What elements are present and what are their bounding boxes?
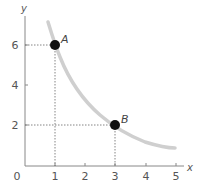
y-tick-6: 6	[12, 39, 19, 52]
y-tick-4: 4	[12, 79, 19, 92]
y-axis-label: y	[20, 3, 28, 14]
x-tick-4: 4	[143, 170, 150, 183]
guide-lines	[25, 45, 115, 166]
x-axis-label: x	[186, 162, 193, 173]
point-a	[50, 40, 60, 50]
x-tick-1: 1	[52, 170, 59, 183]
chart: A B 1 2 3 4 5 0 6 4 2 y x	[0, 0, 205, 194]
point-a-label: A	[60, 33, 69, 46]
point-b-label: B	[121, 113, 129, 126]
origin-label: 0	[14, 170, 21, 183]
point-b	[110, 120, 120, 130]
x-tick-2: 2	[82, 170, 89, 183]
x-tick-5: 5	[173, 170, 180, 183]
y-tick-2: 2	[12, 119, 19, 132]
x-tick-3: 3	[112, 170, 119, 183]
